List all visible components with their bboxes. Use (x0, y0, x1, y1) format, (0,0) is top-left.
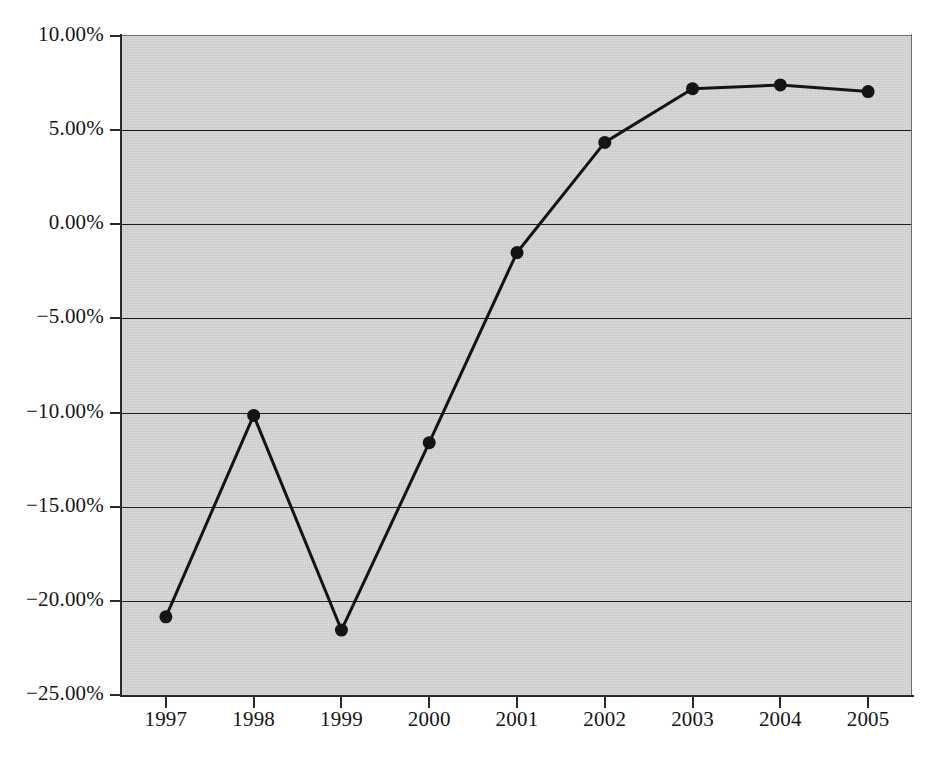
y-axis-tick (110, 223, 122, 225)
y-axis-tick (110, 35, 122, 37)
gridline (122, 601, 912, 602)
x-axis-tick-label: 1997 (121, 707, 211, 732)
y-axis-tick-label: −25.00% (0, 681, 104, 706)
x-axis-tick-label: 2003 (648, 707, 738, 732)
gridline (122, 224, 912, 225)
plot-area (122, 36, 912, 695)
y-axis-tick-label: −5.00% (0, 304, 104, 329)
plot-right-border (911, 34, 912, 695)
plot-top-border (121, 35, 912, 36)
y-axis-tick (110, 129, 122, 131)
x-axis-tick-label: 2004 (735, 707, 825, 732)
y-axis-tick-label: −10.00% (0, 399, 104, 424)
y-axis-tick (110, 694, 122, 696)
x-axis-tick-label: 2000 (384, 707, 474, 732)
y-axis-tick (110, 317, 122, 319)
y-axis-tick-label: 5.00% (0, 116, 104, 141)
y-axis-tick (110, 412, 122, 414)
y-axis-tick (110, 600, 122, 602)
gridline (122, 507, 912, 508)
x-axis-tick-label: 1999 (296, 707, 386, 732)
x-axis-tick-label: 1998 (209, 707, 299, 732)
x-axis-tick-label: 2005 (823, 707, 913, 732)
y-axis-tick-label: 0.00% (0, 210, 104, 235)
y-axis-tick-label: 10.00% (0, 22, 104, 47)
gridline (122, 413, 912, 414)
x-axis-tick-label: 2001 (472, 707, 562, 732)
y-axis-tick-label: −15.00% (0, 493, 104, 518)
chart-figure: 10.00%5.00%0.00%−5.00%−10.00%−15.00%−20.… (0, 0, 934, 757)
x-axis-tick-label: 2002 (560, 707, 650, 732)
y-axis-tick (110, 506, 122, 508)
gridline (122, 318, 912, 319)
y-axis-tick-label: −20.00% (0, 587, 104, 612)
gridline (122, 130, 912, 131)
y-axis-line (120, 34, 122, 697)
